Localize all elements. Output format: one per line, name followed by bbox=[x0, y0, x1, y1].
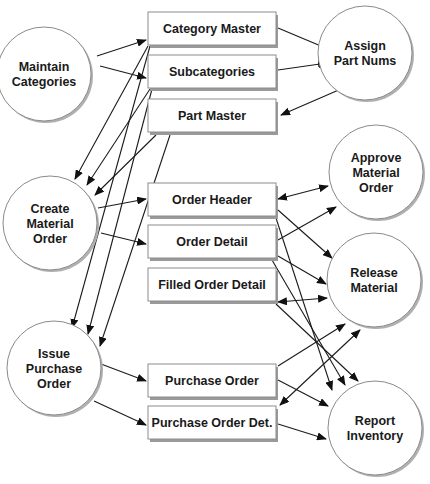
datastore-label: Order Detail bbox=[176, 235, 248, 249]
datastore-label: Purchase Order Det. bbox=[152, 416, 273, 430]
process-label-line: Maintain bbox=[19, 60, 70, 74]
process-label-line: Categories bbox=[12, 75, 77, 89]
flow-arrow-issue-to-po bbox=[101, 364, 146, 381]
flow-arrow-create-to-order-detail bbox=[101, 233, 146, 244]
flow-arrow-maintain-to-subcat bbox=[100, 66, 146, 78]
process-label-line: Order bbox=[37, 377, 71, 391]
flow-arrow-subcat-to-issue bbox=[88, 89, 152, 334]
datastore-subcat: Subcategories bbox=[148, 55, 278, 91]
process-maintain: MaintainCategories bbox=[0, 27, 93, 123]
datastore-label: Purchase Order bbox=[165, 374, 259, 388]
flow-arrow-assign-to-part-master bbox=[281, 89, 341, 115]
flow-arrow-order-header-to-approve bbox=[278, 186, 328, 199]
process-approve: ApproveMaterialOrder bbox=[329, 125, 425, 221]
process-label-line: Order bbox=[33, 232, 67, 246]
datastore-label: Filled Order Detail bbox=[158, 278, 266, 292]
process-report: ReportInventory bbox=[328, 381, 424, 477]
process-label-line: Assign bbox=[344, 39, 386, 53]
process-label-line: Create bbox=[31, 202, 70, 216]
datastore-part-master: Part Master bbox=[148, 99, 278, 135]
flow-arrow-po-det-to-report bbox=[278, 424, 326, 439]
flow-arrow-part-master-to-create bbox=[95, 135, 156, 195]
process-label-line: Inventory bbox=[347, 429, 403, 443]
process-label-line: Issue bbox=[38, 347, 70, 361]
datastore-label: Order Header bbox=[172, 193, 252, 207]
datastore-label: Subcategories bbox=[169, 65, 255, 79]
process-create: CreateMaterialOrder bbox=[3, 176, 99, 272]
flow-arrow-maintain-to-cat-master bbox=[97, 40, 146, 56]
process-label-line: Release bbox=[350, 266, 397, 280]
datastore-label: Part Master bbox=[178, 109, 246, 123]
flow-arrow-subcat-to-create bbox=[87, 89, 150, 185]
process-label-line: Part Nums bbox=[334, 54, 397, 68]
process-label-line: Purchase bbox=[26, 362, 82, 376]
process-label-line: Material bbox=[350, 281, 397, 295]
datastore-label: Category Master bbox=[163, 22, 261, 36]
flow-arrow-issue-to-po-det bbox=[94, 401, 146, 425]
datastore-order-header: Order Header bbox=[148, 183, 278, 219]
datastore-po: Purchase Order bbox=[148, 364, 278, 400]
datastore-cat-master: Category Master bbox=[148, 12, 278, 48]
datastore-po-det: Purchase Order Det. bbox=[148, 406, 278, 442]
flow-arrow-order-detail-to-release bbox=[278, 256, 326, 284]
process-label-line: Report bbox=[355, 414, 396, 428]
flow-arrow-order-header-to-release bbox=[278, 210, 332, 258]
process-release: ReleaseMaterial bbox=[327, 233, 423, 329]
data-flow-diagram: Category MasterSubcategoriesPart MasterO… bbox=[0, 0, 430, 484]
process-issue: IssuePurchaseOrder bbox=[7, 321, 103, 417]
process-label-line: Material bbox=[26, 217, 73, 231]
process-label-line: Approve bbox=[351, 151, 402, 165]
process-label-line: Material bbox=[352, 166, 399, 180]
process-assign: AssignPart Nums bbox=[318, 6, 414, 102]
datastores: Category MasterSubcategoriesPart MasterO… bbox=[148, 12, 278, 442]
datastore-filled-detail: Filled Order Detail bbox=[148, 268, 278, 304]
datastore-order-detail: Order Detail bbox=[148, 225, 278, 261]
process-label-line: Order bbox=[359, 181, 393, 195]
